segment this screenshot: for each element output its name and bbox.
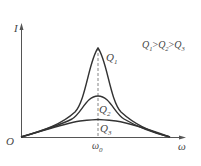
x-axis-arrow-icon <box>179 136 186 140</box>
curve-q3 <box>21 120 170 138</box>
origin-label: O <box>6 135 14 147</box>
y-axis-arrow-icon <box>20 23 24 30</box>
y-axis-label: I <box>13 22 19 34</box>
curve-q3-label: Q3 <box>100 122 112 137</box>
curve-q1-label: Q1 <box>106 51 117 66</box>
quality-factor-legend: Q1>Q2>Q3 <box>142 39 185 52</box>
curve-q1 <box>21 48 170 137</box>
resonance-diagram: I O ω ω0 Q1 Q2 Q3 Q1>Q2>Q3 <box>0 0 201 166</box>
curve-q2-label: Q2 <box>99 103 111 118</box>
x-axis-label: ω <box>178 140 186 152</box>
resonance-frequency-label: ω0 <box>92 140 103 154</box>
